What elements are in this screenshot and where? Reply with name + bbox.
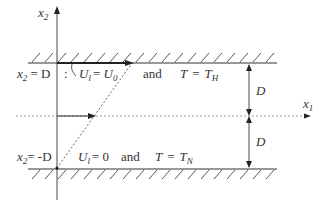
x1-axis-arrow-icon	[304, 114, 311, 119]
x1-axis-label: x1	[302, 96, 313, 113]
top-velocity-arrow-icon	[125, 60, 134, 66]
x2-axis-arrow-icon	[54, 6, 60, 14]
dim-upper-top-arrow-icon	[246, 64, 252, 71]
top-wall-velocity-condition: Ul= U0	[79, 66, 118, 83]
label-leader-curve	[72, 64, 77, 76]
dimension-upper-label: D	[255, 83, 266, 98]
top-wall-conjunction: and	[143, 66, 162, 81]
top-wall-temperature-condition: T=TH	[180, 66, 219, 83]
top-wall-position-label: x2 = D	[16, 66, 51, 83]
bottom-wall-hatching	[32, 170, 274, 179]
x2-axis	[54, 6, 60, 200]
bottom-wall-temperature-condition: T=TN	[155, 149, 194, 166]
bottom-wall-velocity-condition: Ul= 0	[78, 149, 109, 166]
top-wall-separator: :	[64, 66, 68, 81]
top-wall	[28, 53, 277, 63]
center-velocity-arrow	[57, 113, 96, 119]
dimension-upper	[246, 64, 252, 116]
dimension-lower-label: D	[255, 134, 266, 149]
couette-flow-diagram: x2 x1 D D x2 = D : Ul= U0 and T=TH x2= -…	[0, 0, 325, 207]
dim-upper-bottom-arrow-icon	[246, 109, 252, 116]
top-wall-hatching	[32, 53, 274, 62]
bottom-wall-conjunction: and	[121, 149, 140, 164]
dim-lower-top-arrow-icon	[246, 116, 252, 123]
center-velocity-arrow-icon	[88, 113, 96, 119]
bottom-wall-position-label: x2= -D	[16, 149, 52, 166]
dim-lower-bottom-arrow-icon	[246, 161, 252, 168]
bottom-wall	[28, 167, 277, 180]
x2-axis-label: x2	[37, 5, 49, 22]
dimension-lower	[246, 116, 252, 168]
